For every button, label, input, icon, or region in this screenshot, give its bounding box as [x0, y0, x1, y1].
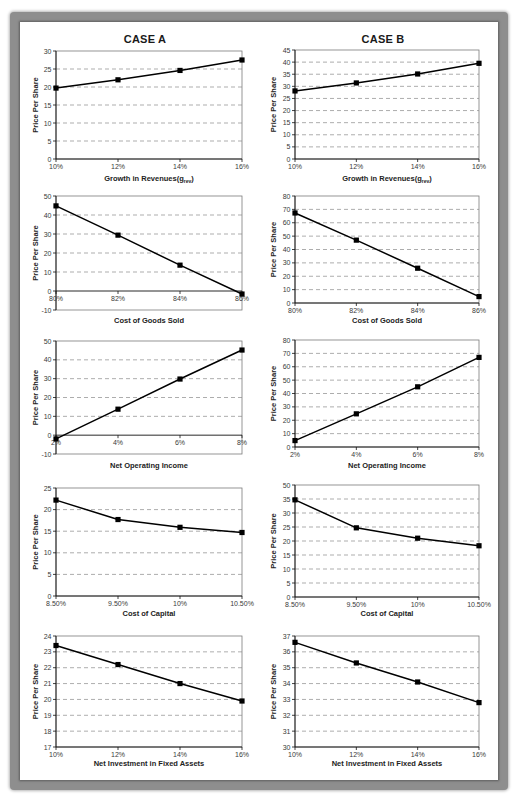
- y-tick-label: 50: [283, 233, 291, 240]
- data-point-marker: [292, 88, 297, 93]
- y-tick-label: 45: [283, 47, 291, 54]
- y-tick-label: 15: [283, 119, 291, 126]
- plot-area-border: [295, 50, 479, 159]
- y-axis-title: Price Per Share: [269, 513, 278, 568]
- x-axis-title-text: ): [429, 174, 432, 183]
- y-tick-label: 25: [283, 95, 291, 102]
- x-tick-label: 14%: [411, 163, 425, 170]
- y-tick-label: 0: [48, 288, 52, 295]
- data-point-marker: [476, 61, 481, 66]
- x-axis-title-text: Cost of Capital: [123, 609, 176, 618]
- data-point-marker: [476, 294, 481, 299]
- y-tick-label: 33: [283, 696, 291, 703]
- x-axis-title-text: Cost of Capital: [361, 609, 414, 618]
- x-tick-label: 10%: [173, 600, 187, 607]
- y-tick-label: 5: [48, 138, 52, 145]
- y-tick-label: 0: [287, 594, 291, 601]
- x-tick-label: 80%: [49, 295, 63, 302]
- x-tick-label: 10%: [411, 601, 425, 608]
- x-axis-title: Cost of Goods Sold: [352, 316, 422, 325]
- y-tick-label: 31: [283, 728, 291, 735]
- data-point-marker: [53, 643, 58, 648]
- data-point-marker: [239, 57, 244, 62]
- data-point-marker: [415, 266, 420, 271]
- x-tick-label: 14%: [173, 163, 187, 170]
- x-tick-label: 8%: [474, 451, 484, 458]
- y-tick-label: 24: [44, 633, 52, 640]
- plot-area-border: [295, 636, 479, 747]
- data-point-marker: [53, 436, 58, 441]
- data-point-marker: [115, 517, 120, 522]
- data-point-marker: [476, 355, 481, 360]
- y-tick-label: 60: [283, 363, 291, 370]
- y-tick-label: 10: [283, 430, 291, 437]
- data-line: [295, 357, 479, 440]
- y-tick-label: 15: [44, 102, 52, 109]
- data-point-marker: [292, 497, 297, 502]
- x-tick-label: 4%: [113, 439, 123, 446]
- x-axis-title: Cost of Capital: [123, 609, 176, 618]
- data-line: [295, 63, 479, 91]
- y-tick-label: 20: [44, 696, 52, 703]
- x-axis-title-text: Growth in Revenues(g: [342, 174, 422, 183]
- x-axis-title-text: Net Investment in Fixed Assets: [94, 759, 205, 768]
- y-tick-label: 20: [44, 394, 52, 401]
- x-tick-label: 9.50%: [108, 600, 128, 607]
- chart-case-a-cost-of-goods-sold: -100102030405080%82%84%86%Price Per Shar…: [20, 185, 260, 330]
- y-tick-label: -10: [41, 451, 51, 458]
- chart-svg: 171819202122232410%12%14%16%Price Per Sh…: [20, 622, 260, 775]
- y-tick-label: 19: [44, 712, 52, 719]
- y-tick-label: 40: [44, 212, 52, 219]
- data-point-marker: [53, 497, 58, 502]
- y-axis-title: Price Per Share: [31, 77, 40, 132]
- y-tick-label: 25: [44, 66, 52, 73]
- y-tick-label: 40: [283, 246, 291, 253]
- y-tick-label: 15: [44, 528, 52, 535]
- y-tick-label: 20: [44, 84, 52, 91]
- chart-case-a-net-investment-fixed-assets: 171819202122232410%12%14%16%Price Per Sh…: [20, 622, 260, 775]
- x-tick-label: 2%: [290, 451, 300, 458]
- y-tick-label: 20: [44, 506, 52, 513]
- x-tick-label: 84%: [411, 307, 425, 314]
- y-tick-label: 60: [283, 219, 291, 226]
- x-tick-label: 6%: [413, 451, 423, 458]
- data-point-marker: [415, 384, 420, 389]
- y-tick-label: 30: [283, 510, 291, 517]
- data-point-marker: [354, 660, 359, 665]
- x-tick-label: 86%: [472, 307, 486, 314]
- y-tick-label: 10: [283, 566, 291, 573]
- data-point-marker: [354, 525, 359, 530]
- data-point-marker: [476, 700, 481, 705]
- plot-area-border: [56, 636, 242, 747]
- y-tick-label: 80: [283, 337, 291, 344]
- x-tick-label: 6%: [175, 439, 185, 446]
- y-tick-label: 10: [283, 131, 291, 138]
- y-tick-label: 34: [283, 680, 291, 687]
- y-tick-label: 10: [44, 120, 52, 127]
- x-tick-label: 80%: [288, 307, 302, 314]
- x-tick-label: 14%: [173, 751, 187, 758]
- y-tick-label: 50: [44, 338, 52, 345]
- data-point-marker: [292, 640, 297, 645]
- data-point-marker: [476, 543, 481, 548]
- chart-svg: -100102030405080%82%84%86%Price Per Shar…: [20, 185, 260, 330]
- x-axis-title: Net Operating Income: [110, 461, 188, 470]
- y-axis-title: Price Per Share: [31, 664, 40, 719]
- y-tick-label: 21: [44, 680, 52, 687]
- x-axis-title-text: Cost of Goods Sold: [114, 316, 184, 325]
- y-tick-label: 30: [44, 48, 52, 55]
- data-point-marker: [53, 85, 58, 90]
- y-tick-label: 20: [283, 107, 291, 114]
- y-tick-label: 30: [283, 744, 291, 751]
- y-tick-label: 0: [287, 300, 291, 307]
- data-point-marker: [177, 681, 182, 686]
- data-point-marker: [354, 411, 359, 416]
- data-line: [56, 500, 242, 532]
- chart-case-b-cost-of-capital: 05101520253035508.50%9.50%10%10.50%Price…: [260, 475, 498, 622]
- data-point-marker: [239, 347, 244, 352]
- x-tick-label: 14%: [411, 751, 425, 758]
- y-tick-label: 40: [283, 390, 291, 397]
- chart-svg: -10010203040502%4%6%8%Price Per ShareNet…: [20, 330, 260, 475]
- y-tick-label: 23: [44, 648, 52, 655]
- y-tick-label: 10: [44, 413, 52, 420]
